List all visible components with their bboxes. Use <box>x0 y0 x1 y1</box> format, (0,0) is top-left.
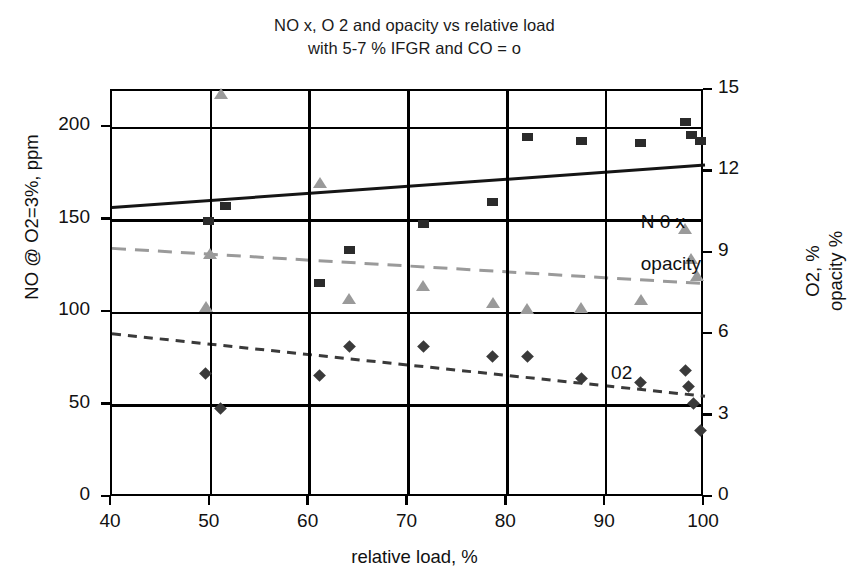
y-axis-right-tick <box>703 413 712 416</box>
y-axis-left-tick-label: 100 <box>12 298 90 320</box>
x-axis-tick-label: 60 <box>268 510 348 532</box>
y-axis-right-tick <box>703 251 712 254</box>
grid-line-vertical <box>210 91 213 494</box>
data-point-square <box>314 279 325 287</box>
x-axis-tick <box>702 496 705 505</box>
y-axis-right-tick-label: 6 <box>718 320 729 342</box>
series-label-opacity: opacity <box>641 253 701 275</box>
x-axis-tick-label: 50 <box>169 510 249 532</box>
y-axis-right-tick <box>703 88 712 91</box>
data-point-square <box>635 139 646 147</box>
data-point-triangle <box>634 294 648 305</box>
x-axis-tick <box>504 496 507 505</box>
data-point-triangle <box>342 293 356 304</box>
data-point-square <box>576 137 587 145</box>
x-axis-tick <box>306 496 309 505</box>
x-axis-tick-label: 80 <box>465 510 545 532</box>
x-axis-tick <box>109 496 112 505</box>
y-axis-right-tick <box>703 332 712 335</box>
x-axis-tick-label: 90 <box>564 510 644 532</box>
x-axis-title: relative load, % <box>0 546 829 568</box>
chart-subtitle: with 5-7 % IFGR and CO = o <box>0 37 829 60</box>
y-axis-left-tick-label: 200 <box>12 113 90 135</box>
y-axis-right-tick-label: 0 <box>718 483 729 505</box>
data-point-square <box>522 133 533 141</box>
y-axis-right-title-line1: O2, % <box>802 245 823 296</box>
grid-line-horizontal <box>112 404 701 407</box>
chart-title-line1: NO x, O 2 and opacity vs relative load <box>274 16 555 34</box>
data-point-square <box>487 198 498 206</box>
y-axis-left-tick <box>101 310 110 313</box>
data-point-triangle <box>520 303 534 314</box>
y-axis-right-tick-label: 15 <box>718 76 739 98</box>
y-axis-left-tick <box>101 217 110 220</box>
x-axis-tick <box>208 496 211 505</box>
grid-line-horizontal <box>112 312 701 315</box>
y-axis-left-tick <box>101 125 110 128</box>
data-point-triangle <box>214 88 228 99</box>
y-axis-right-tick <box>703 169 712 172</box>
data-point-square <box>220 202 231 210</box>
data-point-triangle <box>574 302 588 313</box>
data-point-square <box>695 137 706 145</box>
y-axis-right-tick <box>703 495 712 498</box>
grid-line-vertical <box>308 91 311 494</box>
y-axis-right-tick-label: 3 <box>718 402 729 424</box>
data-point-triangle <box>416 280 430 291</box>
grid-line-vertical <box>605 91 608 494</box>
data-point-triangle <box>199 301 213 312</box>
y-axis-left-tick-label: 0 <box>12 483 90 505</box>
y-axis-left-tick <box>101 402 110 405</box>
y-axis-right-title: O2, % opacity % <box>801 171 847 371</box>
grid-line-horizontal <box>112 127 701 130</box>
data-point-square <box>680 118 691 126</box>
grid-line-vertical <box>506 91 509 494</box>
y-axis-left-tick-label: 150 <box>12 206 90 228</box>
series-label-nox: N 0 x <box>641 211 685 233</box>
data-point-square <box>203 217 214 225</box>
x-axis-tick-label: 100 <box>663 510 743 532</box>
grid-line-vertical <box>407 91 410 494</box>
data-point-triangle <box>313 177 327 188</box>
data-point-square <box>344 246 355 254</box>
x-axis-tick <box>603 496 606 505</box>
series-label-o2: 02 <box>611 362 632 384</box>
y-axis-right-title-line2: opacity % <box>825 231 846 311</box>
y-axis-right-tick-label: 12 <box>718 157 739 179</box>
grid-line-horizontal <box>112 219 701 222</box>
y-axis-right-tick-label: 9 <box>718 239 729 261</box>
data-point-triangle <box>486 297 500 308</box>
plot-area: N 0 xopacity02 <box>110 89 703 496</box>
x-axis-tick-label: 40 <box>70 510 150 532</box>
x-axis-tick-label: 70 <box>367 510 447 532</box>
chart-title: NO x, O 2 and opacity vs relative load w… <box>0 14 829 60</box>
data-point-square <box>418 220 429 228</box>
data-point-triangle <box>203 248 217 259</box>
y-axis-left-tick-label: 50 <box>12 391 90 413</box>
x-axis-tick <box>405 496 408 505</box>
